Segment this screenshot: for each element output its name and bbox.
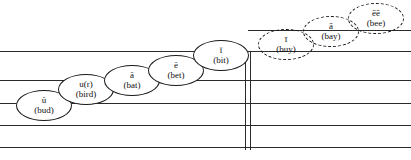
vowel-note-bee[interactable]: ēē(bee) (348, 3, 404, 34)
staff-line-5 (0, 147, 411, 148)
barline-1 (245, 51, 246, 150)
vowel-symbol: ī (285, 35, 288, 44)
example-word: (bee) (367, 19, 385, 28)
example-word: (bud) (34, 106, 54, 115)
example-word: (bet) (168, 71, 185, 80)
example-word: (buy) (276, 45, 296, 54)
vowel-staff-diagram: ŭ(bud)u(r)(bird)ă(bat)ĕ(bet)ĭ(bit)ī(buy)… (0, 0, 411, 160)
vowel-symbol: ĕ (174, 61, 178, 70)
example-word: (bird) (76, 90, 97, 99)
vowel-symbol: ĭ (220, 46, 223, 55)
vowel-symbol: u(r) (79, 80, 93, 89)
vowel-symbol: ŭ (42, 96, 47, 105)
vowel-note-bit[interactable]: ĭ(bit) (193, 40, 249, 71)
vowel-symbol: ā (329, 22, 333, 31)
vowel-symbol: ēē (372, 9, 380, 18)
barline-2 (250, 51, 251, 150)
example-word: (bay) (322, 32, 341, 41)
example-word: (bat) (124, 81, 141, 90)
vowel-symbol: ă (130, 71, 134, 80)
staff-line-4 (0, 125, 411, 126)
example-word: (bit) (213, 56, 229, 65)
